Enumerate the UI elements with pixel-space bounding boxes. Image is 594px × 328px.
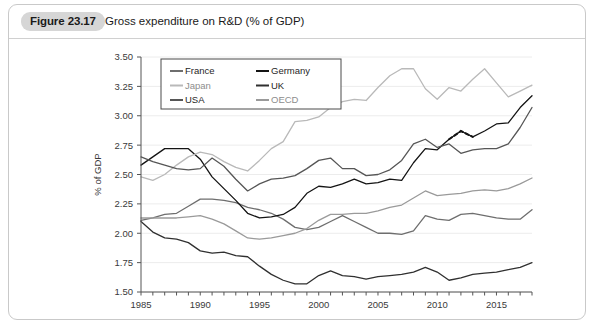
legend-item-france: France <box>185 65 215 76</box>
y-tick-label: 2.00 <box>115 228 134 239</box>
y-tick-label: 2.75 <box>115 140 134 151</box>
figure-header: Figure 23.17 Gross expenditure on R&D (%… <box>9 5 585 38</box>
y-tick-label: 3.50 <box>115 51 134 62</box>
y-tick-label: 2.25 <box>115 198 134 209</box>
legend-item-usa: USA <box>185 94 205 105</box>
chart-legend: FranceGermanyJapanUKUSAOECD <box>161 59 341 109</box>
x-tick-label: 2000 <box>308 299 329 310</box>
figure-number-badge: Figure 23.17 <box>21 12 105 31</box>
legend-item-japan: Japan <box>185 80 211 91</box>
y-tick-label: 1.75 <box>115 257 134 268</box>
y-tick-label: 1.50 <box>115 286 134 297</box>
x-tick-label: 1995 <box>249 299 270 310</box>
y-tick-label: 3.25 <box>115 81 134 92</box>
x-tick-label: 2005 <box>367 299 388 310</box>
y-tick-label: 2.50 <box>115 169 134 180</box>
x-axis-tick-labels: 1985199019952000200520102015 <box>130 292 532 310</box>
legend-item-germany: Germany <box>271 65 310 76</box>
chart-plot-area: 1.501.752.002.252.502.753.003.253.50 198… <box>9 39 586 320</box>
x-tick-label: 1985 <box>130 299 151 310</box>
y-axis-label: % of GDP <box>92 153 103 195</box>
line-chart: 1.501.752.002.252.502.753.003.253.50 198… <box>9 39 586 320</box>
y-axis-tick-labels: 1.501.752.002.252.502.753.003.253.50 <box>115 51 142 297</box>
legend-item-oecd: OECD <box>271 94 299 105</box>
y-tick-label: 3.00 <box>115 110 134 121</box>
x-tick-label: 1990 <box>190 299 211 310</box>
x-tick-label: 2015 <box>486 299 507 310</box>
figure-title: Gross expenditure on R&D (% of GDP) <box>105 12 304 31</box>
y-axis-title: % of GDP <box>92 153 103 195</box>
x-tick-label: 2010 <box>427 299 448 310</box>
legend-item-uk: UK <box>271 80 285 91</box>
figure-card: Figure 23.17 Gross expenditure on R&D (%… <box>8 4 586 320</box>
